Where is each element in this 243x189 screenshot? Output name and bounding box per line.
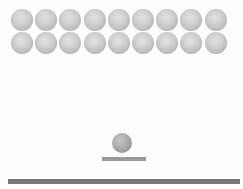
brick — [84, 32, 106, 54]
brick — [156, 32, 178, 54]
brick — [156, 9, 178, 31]
brick — [205, 32, 227, 54]
brick — [132, 9, 154, 31]
brick — [11, 32, 33, 54]
brick — [108, 32, 130, 54]
brick — [180, 32, 202, 54]
brick — [180, 9, 202, 31]
brick — [132, 32, 154, 54]
brick — [84, 9, 106, 31]
brick — [59, 32, 81, 54]
ball — [112, 133, 132, 153]
brick — [59, 9, 81, 31]
brick — [11, 9, 33, 31]
paddle[interactable] — [102, 157, 146, 161]
brick — [35, 32, 57, 54]
brick — [108, 9, 130, 31]
game-canvas[interactable] — [0, 0, 243, 189]
floor-bar — [8, 179, 240, 184]
brick — [35, 9, 57, 31]
brick — [205, 9, 227, 31]
